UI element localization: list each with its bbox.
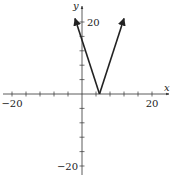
left-branch-line bbox=[75, 18, 100, 94]
y-tick-label: 20 bbox=[87, 17, 100, 28]
right-branch-line bbox=[100, 18, 125, 94]
x-tick-label: −20 bbox=[1, 98, 22, 109]
y-axis-label: y bbox=[72, 0, 79, 11]
y-tick-label: −20 bbox=[57, 161, 78, 172]
x-axis-label: x bbox=[164, 82, 170, 93]
x-tick-label: 20 bbox=[146, 98, 159, 109]
absolute-value-chart: −202020−20 x y bbox=[0, 0, 171, 177]
